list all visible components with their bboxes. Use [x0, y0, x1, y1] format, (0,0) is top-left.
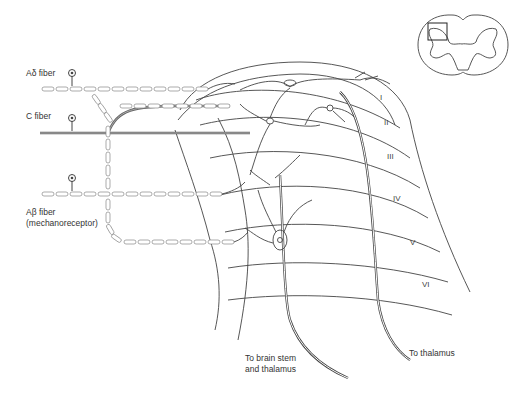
- lamina-label-iii: III: [387, 152, 394, 161]
- a-delta-fiber-label: Aδ fiber: [26, 68, 55, 78]
- output-label-brainstem-line2: and thalamus: [245, 364, 296, 374]
- output-tracts: [280, 92, 410, 378]
- neurons: [240, 72, 390, 250]
- lamina-label-vi: VI: [422, 280, 430, 289]
- lamina-label-ii: II: [384, 118, 388, 127]
- output-label-thalamus: To thalamus: [409, 348, 455, 358]
- output-label-brainstem-line1: To brain stem: [245, 353, 296, 363]
- lamina-label-i: I: [380, 93, 382, 102]
- dorsal-horn-diagram: [0, 0, 512, 398]
- c-fiber-label: C fiber: [26, 111, 51, 121]
- a-beta-fiber-label: Aβ fiber: [26, 207, 55, 217]
- lamina-boundaries: [196, 90, 452, 315]
- dorsal-horn-outline: [175, 62, 470, 340]
- lamina-label-v: V: [410, 238, 415, 247]
- spinal-cord-inset: [418, 15, 508, 75]
- a-beta-fiber-sublabel: (mechanoreceptor): [26, 218, 98, 228]
- lamina-label-iv: IV: [393, 194, 401, 203]
